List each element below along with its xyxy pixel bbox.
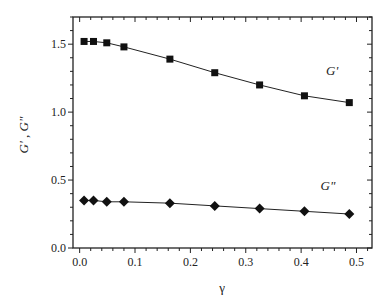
series-label-g-double-prime: G": [321, 178, 336, 193]
plot-border: [73, 17, 372, 248]
diamond-marker: [210, 201, 220, 211]
diamond-marker: [344, 209, 354, 219]
diamond-marker: [102, 197, 112, 207]
series-layer: [79, 38, 354, 219]
y-tick-label: 1.5: [51, 37, 66, 51]
x-tick-label: 0.5: [349, 255, 364, 269]
y-axis-title: G' , G": [16, 116, 31, 153]
y-tick-label: 0.0: [51, 241, 66, 255]
x-tick-label: 0.4: [294, 255, 309, 269]
x-tick-label: 0.3: [238, 255, 253, 269]
diamond-marker: [88, 195, 98, 205]
y-tick-label: 0.5: [51, 173, 66, 187]
x-axis-title: γ: [218, 280, 225, 295]
y-tick-label: 1.0: [51, 105, 66, 119]
square-marker: [166, 56, 173, 63]
series-g-double-prime: [79, 195, 354, 219]
diamond-marker: [255, 204, 265, 214]
square-marker: [301, 92, 308, 99]
square-marker: [256, 81, 263, 88]
square-marker: [81, 38, 88, 45]
series-label-g-prime: G': [326, 63, 338, 78]
chart: 0.00.10.20.30.40.5 0.00.51.01.5 γ G' , G…: [0, 0, 392, 306]
square-marker: [211, 69, 218, 76]
square-marker: [103, 39, 110, 46]
x-tick-label: 0.2: [183, 255, 198, 269]
diamond-marker: [165, 198, 175, 208]
diamond-marker: [299, 206, 309, 216]
y-axis-ticks: 0.00.51.01.5: [51, 17, 372, 255]
series-g-prime: [81, 38, 353, 106]
square-marker: [90, 38, 97, 45]
x-axis-ticks: 0.00.10.20.30.40.5: [72, 17, 367, 269]
x-tick-label: 0.0: [72, 255, 87, 269]
square-marker: [346, 99, 353, 106]
square-marker: [120, 43, 127, 50]
diamond-marker: [79, 195, 89, 205]
x-tick-label: 0.1: [128, 255, 143, 269]
diamond-marker: [119, 197, 129, 207]
plot-frame: [73, 17, 372, 248]
y-axis-title-text: G' , G": [16, 116, 31, 153]
